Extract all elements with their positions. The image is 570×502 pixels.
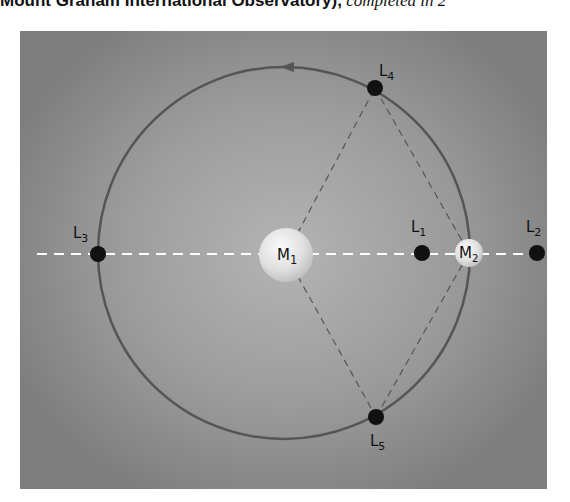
lagrange-point-l2: L2	[526, 218, 545, 261]
svg-text:L3: L3	[73, 224, 88, 245]
dashed-line-l5-m2	[376, 253, 469, 417]
dashed-line-m1-l5	[286, 255, 376, 417]
body-m1: M1	[259, 228, 313, 282]
orbit-direction-arrow-icon	[280, 62, 294, 72]
svg-text:L5: L5	[370, 432, 385, 453]
svg-text:L4: L4	[379, 62, 394, 83]
dashed-line-m1-l4	[286, 88, 375, 255]
svg-text:L1: L1	[411, 218, 426, 239]
lagrange-point-l5: L5	[368, 409, 385, 453]
lagrange-point-l4: L4	[367, 62, 394, 96]
lagrange-diagram: M1M2 L1L2L3L4L5	[0, 0, 570, 502]
lagrange-point-l3: L3	[73, 224, 106, 262]
svg-text:L2: L2	[526, 218, 541, 239]
body-m2: M2	[455, 239, 483, 267]
